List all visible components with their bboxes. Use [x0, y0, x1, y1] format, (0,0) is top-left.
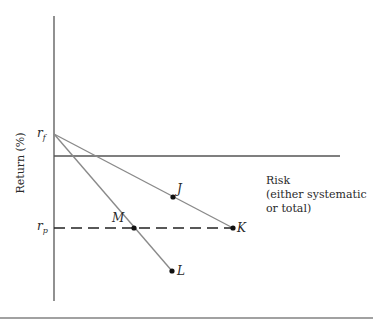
rp-label: rp — [37, 219, 48, 235]
y-axis-label: Return (%) — [14, 132, 27, 193]
label-l: L — [176, 264, 185, 278]
rf-label: rf — [37, 126, 48, 142]
point-k — [230, 225, 235, 230]
x-axis-label-line2: (either systematic — [266, 188, 367, 201]
point-j — [170, 194, 175, 199]
risk-return-diagram: J K M L rf rp Return (%) Risk (either sy… — [0, 0, 373, 324]
line-rf-to-l — [54, 134, 172, 271]
label-j: J — [174, 182, 183, 196]
x-axis-label-line3: or total) — [266, 202, 311, 215]
line-rf-to-k — [54, 134, 233, 228]
point-m — [131, 225, 136, 230]
label-m: M — [111, 211, 125, 225]
x-axis-label-line1: Risk — [266, 174, 290, 187]
point-l — [169, 268, 174, 273]
label-k: K — [236, 221, 247, 235]
